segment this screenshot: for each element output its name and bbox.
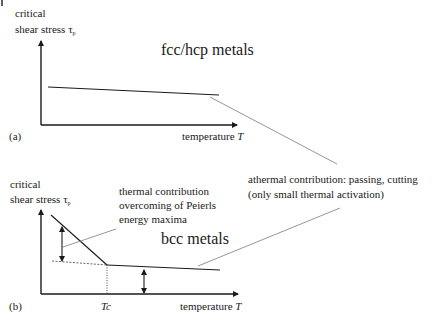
- panel-b-y-label-line1: critical: [10, 178, 41, 190]
- panel-a-title: fcc/hcp metals: [161, 41, 254, 59]
- panel-b-x-label: temperature T: [180, 300, 242, 312]
- tc-label: Tc: [101, 300, 111, 312]
- stress-temperature-diagram: critical shear stress τp fcc/hcp metals …: [0, 0, 432, 322]
- panel-b-athermal-curve: [107, 265, 220, 270]
- pointer-thermal-note: [63, 229, 116, 247]
- panel-a: critical shear stress τp fcc/hcp metals …: [9, 7, 254, 143]
- panel-a-y-label-line2: shear stress τp: [15, 23, 76, 36]
- athermal-note-line2: (only small thermal activation): [248, 188, 384, 201]
- athermal-note-line1: athermal contribution: passing, cutting: [248, 173, 418, 185]
- thermal-note-line2: overcoming of Peierls: [119, 199, 216, 211]
- thermal-note-line1: thermal contribution: [119, 185, 210, 197]
- panel-b-athermal-extension: [52, 261, 107, 265]
- thermal-note-line3: energy maxima: [119, 213, 187, 225]
- panel-b-y-label-line2: shear stress τp: [10, 193, 71, 206]
- panel-a-x-label: temperature T: [182, 130, 244, 142]
- panel-b-title: bcc metals: [161, 230, 229, 247]
- panel-a-stress-curve: [48, 87, 219, 95]
- panel-b-label: (b): [9, 300, 22, 313]
- panel-a-y-label-line1: critical: [15, 7, 46, 19]
- panel-b-thermal-curve: [51, 215, 107, 265]
- panel-a-label: (a): [9, 130, 22, 143]
